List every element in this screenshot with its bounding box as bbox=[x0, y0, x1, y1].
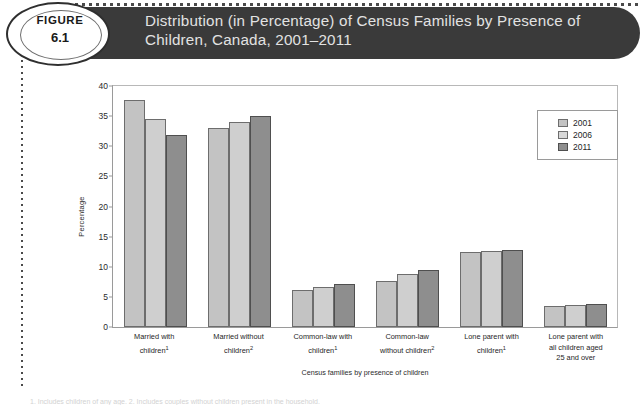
bar-2006[interactable] bbox=[565, 305, 586, 327]
bar-2006[interactable] bbox=[481, 251, 502, 327]
left-dotted-rail bbox=[21, 60, 23, 390]
x-axis-category-label: Married withoutchildren2 bbox=[196, 332, 280, 364]
bar-group bbox=[113, 86, 197, 327]
plot-area: 0510152025303540 200120062011 bbox=[112, 85, 618, 328]
bar-2011[interactable] bbox=[250, 116, 271, 327]
x-axis-category-label: Lone parent withall children aged25 and … bbox=[534, 332, 618, 364]
chart-legend: 200120062011 bbox=[537, 110, 618, 160]
bar-group bbox=[197, 86, 281, 327]
bar-2006[interactable] bbox=[229, 122, 250, 327]
bar-2006[interactable] bbox=[397, 274, 418, 327]
bar-2001[interactable] bbox=[124, 100, 145, 327]
bar-2001[interactable] bbox=[544, 306, 565, 327]
bar-2011[interactable] bbox=[334, 284, 355, 327]
x-axis-category-label: Common-lawwithout children2 bbox=[365, 332, 449, 364]
bar-2001[interactable] bbox=[208, 128, 229, 327]
figure-footnote: 1. Includes children of any age. 2. Incl… bbox=[30, 398, 590, 405]
bar-2011[interactable] bbox=[418, 270, 439, 327]
figure-title: Distribution (in Percentage) of Census F… bbox=[145, 11, 615, 49]
legend-swatch-icon bbox=[558, 143, 568, 151]
legend-label: 2006 bbox=[573, 130, 592, 140]
bar-group bbox=[449, 86, 533, 327]
legend-item-2001[interactable]: 2001 bbox=[558, 118, 610, 128]
figure-badge: FIGURE 6.1 bbox=[6, 2, 110, 66]
chart-container: Percentage 0510152025303540 200120062011… bbox=[88, 62, 636, 392]
bar-2001[interactable] bbox=[460, 252, 481, 327]
y-axis-title: Percentage bbox=[77, 172, 86, 262]
bar-2011[interactable] bbox=[586, 304, 607, 327]
bar-2001[interactable] bbox=[292, 290, 313, 327]
figure-badge-number: 6.1 bbox=[8, 30, 112, 45]
x-axis-category-label: Lone parent withchildren1 bbox=[449, 332, 533, 364]
x-axis-labels: Married withchildren1Married withoutchil… bbox=[112, 332, 618, 364]
bar-2001[interactable] bbox=[376, 281, 397, 327]
legend-label: 2001 bbox=[573, 118, 592, 128]
bar-group bbox=[281, 86, 365, 327]
legend-item-2006[interactable]: 2006 bbox=[558, 130, 610, 140]
bar-group bbox=[365, 86, 449, 327]
legend-swatch-icon bbox=[558, 131, 568, 139]
x-axis-category-label: Common-law withchildren1 bbox=[281, 332, 365, 364]
bar-2006[interactable] bbox=[313, 287, 334, 327]
x-axis-category-label: Married withchildren1 bbox=[112, 332, 196, 364]
x-axis-title: Census families by presence of children bbox=[112, 368, 618, 377]
bar-2011[interactable] bbox=[502, 250, 523, 327]
bar-2011[interactable] bbox=[166, 135, 187, 327]
legend-item-2011[interactable]: 2011 bbox=[558, 142, 610, 152]
header-dot-rule bbox=[68, 3, 640, 6]
figure-badge-label: FIGURE bbox=[8, 14, 112, 26]
legend-label: 2011 bbox=[573, 142, 591, 152]
bar-2006[interactable] bbox=[145, 119, 166, 327]
legend-swatch-icon bbox=[558, 119, 568, 127]
